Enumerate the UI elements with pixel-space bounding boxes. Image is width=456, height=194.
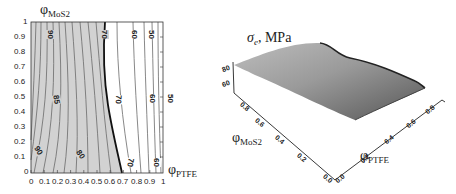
y-axis-label-sub: MoS2 [48, 9, 70, 19]
y-axis-label-main: φ [40, 2, 48, 17]
surface-title: σe, MPa [247, 30, 291, 47]
ptfe-label-main: φ [360, 148, 368, 163]
mos2-label-sub: MoS2 [240, 137, 262, 147]
y-tick: 0.4 [14, 107, 25, 116]
x-tick: 0.3 [65, 177, 76, 186]
contour-label: 60 [130, 30, 139, 39]
x-axis-label-sub: PTFE [176, 169, 197, 179]
mos2-label-main: φ [232, 130, 240, 145]
contour-label: 60 [148, 94, 157, 103]
y-tick: 0 [24, 167, 28, 176]
y-tick: 0.5 [14, 92, 25, 101]
x-tick: 0.1 [39, 177, 50, 186]
y-tick: 1 [23, 17, 27, 26]
ptfe-axis-label: φPTFE [360, 148, 389, 165]
contour-label: 90 [46, 30, 55, 39]
contour-label: 70 [100, 30, 109, 39]
contour-plot: φMoS2 φPTFE 1 0.9 0.8 0.7 0.6 0.5 0.4 0.… [0, 0, 210, 194]
contour-label: 70 [114, 95, 124, 105]
y-tick: 0.1 [14, 152, 25, 161]
y-tick: 0.3 [14, 122, 25, 131]
x-tick: 0.5 [91, 177, 102, 186]
x-tick: 0.4 [78, 177, 89, 186]
title-units: , MPa [258, 30, 291, 45]
y-axis-label: φMoS2 [40, 2, 70, 19]
contour-label: 50 [147, 30, 156, 39]
surface-plot: σe, MPa 80 60 0.8 0.6 0.4 0.2 0.0 0.0 0.… [210, 0, 456, 194]
y-tick: 0.2 [14, 137, 25, 146]
y-tick: 0.8 [14, 47, 25, 56]
y-tick: 0.6 [14, 77, 25, 86]
x-tick: 0 [29, 177, 33, 186]
sigma-symbol: σ [247, 30, 254, 45]
x-tick: 1 [161, 177, 165, 186]
x-tick: 0.2 [52, 177, 63, 186]
mos2-axis-label: φMoS2 [232, 130, 262, 147]
x-tick: 0.7 [117, 177, 128, 186]
y-tick: 0.7 [14, 62, 25, 71]
y-tick: 0.9 [14, 32, 25, 41]
x-axis-label: φPTFE [168, 162, 197, 179]
contour-label: 70 [125, 157, 135, 167]
ptfe-label-sub: PTFE [368, 155, 389, 165]
x-tick: 0.8 [131, 177, 142, 186]
contour-label: 85 [51, 94, 61, 104]
x-axis-label-main: φ [168, 162, 176, 177]
contour-label: 60 [152, 158, 161, 167]
z-axis [233, 62, 234, 93]
x-tick: 0.6 [104, 177, 115, 186]
x-tick: 0.9 [144, 177, 155, 186]
contour-label: 50 [166, 94, 175, 103]
surface [234, 43, 425, 120]
